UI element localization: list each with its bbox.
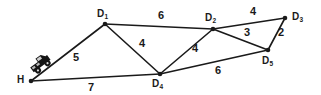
- edge-d1-d2: [105, 24, 213, 29]
- edge-d2-d4: [160, 29, 213, 74]
- edge-weight-d2-d4: 4: [192, 43, 198, 54]
- edge-d1-d4: [105, 24, 160, 74]
- edge-h-d4: [31, 74, 160, 81]
- node-dot-d1: [103, 22, 108, 27]
- node-label-d5: D5: [262, 56, 273, 66]
- node-dot-d3: [283, 16, 288, 21]
- edge-d4-d5: [160, 50, 268, 74]
- edge-weight-d2-d3: 4: [250, 6, 256, 17]
- graph-diagram: HD1D2D3D4D5 576444326: [0, 0, 321, 95]
- node-dot-d4: [158, 72, 163, 77]
- edge-d2-d5: [213, 29, 268, 50]
- edge-weight-d3-d5: 2: [278, 27, 284, 38]
- node-dot-d2: [211, 27, 216, 32]
- edge-weight-d1-d2: 6: [158, 10, 164, 21]
- node-label-h: H: [17, 75, 24, 85]
- node-label-d3: D3: [292, 12, 303, 22]
- node-dot-d5: [266, 48, 271, 53]
- edge-weight-d2-d5: 3: [244, 27, 250, 38]
- edge-weight-d4-d5: 6: [215, 65, 221, 76]
- node-label-d2: D2: [205, 13, 216, 23]
- node-label-d4: D4: [152, 79, 163, 89]
- node-dot-h: [29, 79, 34, 84]
- edge-weight-h-d4: 7: [88, 82, 94, 93]
- truck-icon: [28, 54, 54, 75]
- edge-weight-h-d1: 5: [73, 52, 79, 63]
- edge-weight-d1-d4: 4: [139, 38, 145, 49]
- node-label-d1: D1: [97, 9, 108, 19]
